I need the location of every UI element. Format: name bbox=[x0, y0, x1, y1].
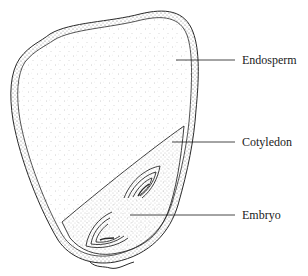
endosperm-label: Endosperm bbox=[242, 53, 297, 67]
embryo-label: Embryo bbox=[242, 208, 281, 222]
cotyledon-label: Cotyledon bbox=[242, 135, 292, 149]
